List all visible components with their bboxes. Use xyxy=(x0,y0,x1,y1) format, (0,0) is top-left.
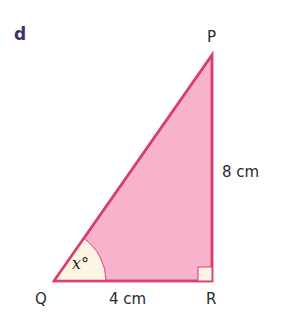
vertex-label-q: Q xyxy=(35,290,47,308)
vertex-label-p: P xyxy=(207,28,216,46)
vertex-label-r: R xyxy=(206,290,216,308)
right-angle-marker xyxy=(198,267,212,281)
side-label-qr: 4 cm xyxy=(109,290,146,308)
angle-unit: ° xyxy=(81,254,89,273)
side-label-pr: 8 cm xyxy=(222,163,259,181)
angle-label-x: x° xyxy=(72,254,89,273)
angle-symbol: x xyxy=(72,254,81,273)
